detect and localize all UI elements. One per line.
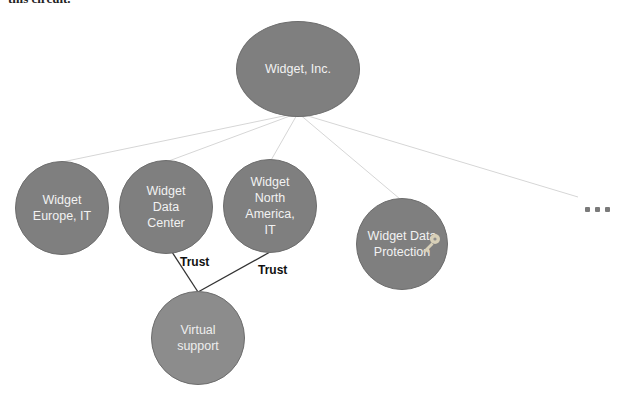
node-root-label: Widget, Inc. <box>265 61 331 77</box>
trust-label-right: Trust <box>258 263 287 277</box>
node-virtual-support: Virtual support <box>151 291 245 385</box>
node-north-america-label: Widget North America, IT <box>240 174 300 238</box>
key-icon <box>420 232 442 254</box>
node-europe-it: Widget Europe, IT <box>15 161 109 255</box>
node-north-america-it: Widget North America, IT <box>223 159 317 253</box>
node-root: Widget, Inc. <box>236 21 360 117</box>
connector-data-protection <box>298 113 400 199</box>
node-data-center-label: Widget Data Center <box>141 183 191 231</box>
node-virtual-support-label: Virtual support <box>168 322 228 354</box>
node-europe-label: Widget Europe, IT <box>27 192 97 224</box>
connector-europe <box>62 113 298 162</box>
more-indicator <box>585 207 610 212</box>
trust-label-left: Trust <box>180 255 209 269</box>
connector-north-america <box>270 113 298 162</box>
connector-more <box>298 113 578 197</box>
connector-data-center <box>166 113 298 162</box>
node-data-center: Widget Data Center <box>119 160 213 254</box>
